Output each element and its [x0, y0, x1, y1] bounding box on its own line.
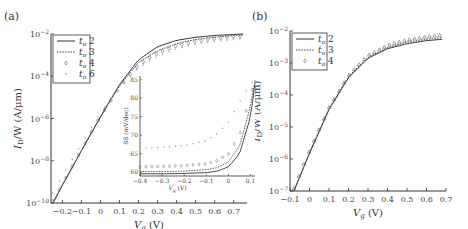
y-tick-label: 10−8 — [30, 155, 49, 166]
legend-label: to 4 — [79, 58, 95, 69]
x-tick-label: 0.5 — [401, 195, 414, 204]
y-axis-label: ID/W (A/μm) — [12, 88, 25, 150]
x-tick-label: 0.3 — [151, 207, 164, 216]
x-tick-label: 0.4 — [381, 195, 394, 204]
x-tick-label: 0.2 — [132, 207, 145, 216]
inset-y-tick-label: 85 — [130, 76, 138, 83]
y-tick-label: 10−2 — [269, 25, 288, 36]
x-tick-label: −0.1 — [72, 207, 91, 216]
panel-label-b: (b) — [252, 10, 268, 23]
y-tick-label: 10−4 — [30, 70, 49, 81]
x-tick-label: 0 — [307, 195, 312, 204]
y-tick-label: 10−10 — [26, 197, 49, 208]
inset-y-tick-label: 65 — [130, 150, 138, 157]
x-tick-label: 0.1 — [323, 195, 336, 204]
x-tick-label: 0.7 — [227, 207, 240, 216]
x-tick-label: 0.6 — [208, 207, 221, 216]
y-tick-label: 10−6 — [269, 153, 288, 164]
x-tick-label: 0 — [98, 207, 103, 216]
legend-label: to 6 — [79, 69, 95, 80]
x-tick-label: 0.4 — [170, 207, 183, 216]
inset-y-axis-label: SS (mV/dec) — [122, 107, 129, 145]
inset-x-tick-label: −0.1 — [199, 177, 214, 184]
inset-x-tick-label: −0.2 — [177, 177, 192, 184]
y-tick-label: 10−2 — [30, 28, 49, 39]
x-tick-label: 0.5 — [189, 207, 202, 216]
x-tick-label: −0.1 — [280, 195, 299, 204]
inset-y-tick-label: 80 — [130, 94, 138, 101]
x-tick-label: 0.2 — [342, 195, 355, 204]
x-tick-label: 0.7 — [440, 195, 453, 204]
legend-label: to 2 — [79, 36, 95, 47]
legend-label: to 3 — [79, 47, 95, 58]
inset-y-tick-label: 75 — [130, 113, 138, 120]
x-tick-label: 0.1 — [113, 207, 126, 216]
legend-label: to 3 — [318, 45, 334, 56]
figure: (a)(b)−0.2−0.100.10.20.30.40.50.60.710−1… — [0, 0, 468, 229]
legend-label: to 4 — [318, 56, 334, 67]
y-tick-label: 10−3 — [269, 57, 288, 68]
inset-y-tick-label: 60 — [130, 168, 138, 175]
x-tick-label: 0.6 — [420, 195, 433, 204]
legend: to 2to 3to 4to 6 — [53, 35, 95, 83]
legend: to 2to 3to 4 — [292, 33, 334, 70]
x-axis-label: Vg (V) — [353, 207, 383, 220]
inset-x-tick-label: 0 — [227, 177, 231, 184]
inset-x-tick-label: −0.4 — [133, 177, 148, 184]
panel-label-a: (a) — [4, 10, 19, 23]
chart-panel-b: −0.100.10.20.30.40.50.60.710−710−610−510… — [251, 25, 452, 220]
legend-label: to 2 — [318, 34, 334, 45]
y-tick-label: 10−5 — [269, 121, 288, 132]
y-tick-label: 10−4 — [269, 89, 288, 100]
inset-ss-chart: −0.4−0.3−0.2−0.100.1606570758085SS (mV/d… — [122, 76, 255, 193]
y-tick-label: 10−6 — [30, 113, 49, 124]
inset-x-axis-label: Vg (V) — [168, 184, 186, 193]
x-tick-label: −0.2 — [53, 207, 72, 216]
inset-y-tick-label: 70 — [130, 131, 138, 138]
inset-x-tick-label: −0.3 — [155, 177, 170, 184]
x-axis-label: Vg (V) — [134, 219, 164, 229]
x-tick-label: 0.3 — [362, 195, 375, 204]
inset-x-tick-label: 0.1 — [246, 177, 256, 184]
